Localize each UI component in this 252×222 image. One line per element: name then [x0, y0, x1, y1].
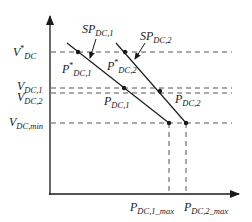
- max-point-2: [184, 121, 188, 125]
- ref-point-1: [76, 50, 80, 54]
- ref-point-2: [123, 50, 127, 54]
- vdc-min-label: VDC,min: [9, 115, 43, 131]
- op-point-label-1: PDC,1: [103, 94, 130, 110]
- op-point-1: [122, 86, 126, 90]
- setpoint-arrow-1: [90, 39, 96, 58]
- pdc2-max-label: PDC,2_max: [183, 200, 228, 216]
- ref-point-label-1: P*DC,1: [61, 61, 92, 78]
- setpoint-label-1: SPDC,1: [82, 22, 114, 38]
- op-point-2: [158, 89, 162, 93]
- vdc-ref-label: V*DC: [13, 44, 36, 61]
- droop-diagram: V*DC VDC,1 VDC,2 VDC,min PDC,1_max PDC,2…: [0, 0, 252, 222]
- droop-line-2: [116, 43, 186, 123]
- droop-line-1: [67, 43, 169, 123]
- pdc1-max-label: PDC,1_max: [129, 200, 174, 216]
- op-point-label-2: PDC,2: [174, 92, 201, 108]
- setpoint-arrow-2: [135, 43, 145, 59]
- setpoint-label-2: SPDC,2: [140, 29, 172, 45]
- max-point-1: [167, 121, 171, 125]
- ref-point-label-2: P*DC,2: [106, 58, 137, 75]
